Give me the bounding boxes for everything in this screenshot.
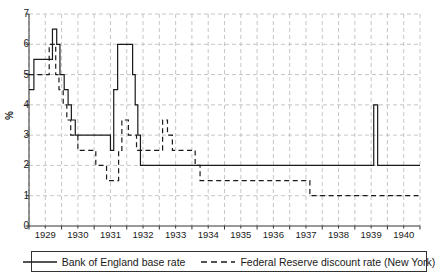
legend-entry-federal-reserve: Federal Reserve discount rate (New York) [193, 256, 440, 268]
legend-swatch-solid [23, 258, 57, 266]
legend-label-federal-reserve: Federal Reserve discount rate (New York) [240, 256, 435, 268]
legend-label-bank-of-england: Bank of England base rate [62, 256, 186, 268]
grid-lines [29, 14, 420, 226]
chart-legend: Bank of England base rate Federal Reserv… [31, 251, 427, 272]
legend-entry-bank-of-england: Bank of England base rate [15, 256, 194, 268]
axis-ticks [26, 14, 421, 230]
x-tick-label: 1940 [384, 230, 424, 240]
legend-swatch-dashed [201, 258, 235, 266]
